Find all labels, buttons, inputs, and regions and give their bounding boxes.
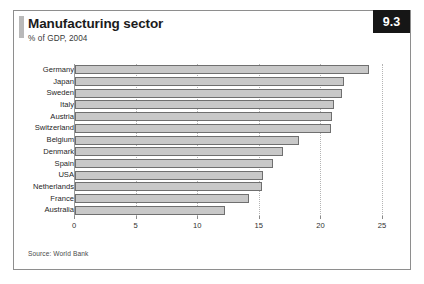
plot-area: GermanyJapanSwedenItalyAustriaSwitzerlan… — [14, 55, 412, 235]
category-label: France — [50, 193, 74, 205]
chart-subtitle: % of GDP, 2004 — [28, 34, 88, 43]
gridline — [320, 64, 321, 216]
category-label: Italy — [60, 99, 74, 111]
title-accent-bar — [19, 16, 24, 38]
chart-title: Manufacturing sector — [28, 16, 163, 31]
bar — [75, 89, 342, 98]
tick-mark — [320, 216, 321, 219]
tick-mark — [136, 216, 137, 219]
category-label: Austria — [50, 111, 74, 123]
tick-label: 15 — [255, 221, 263, 230]
category-label: Australia — [44, 204, 74, 216]
tick-label: 5 — [133, 221, 137, 230]
bar — [75, 159, 273, 168]
bars-and-gridlines — [74, 64, 399, 216]
chart-card: Manufacturing sector % of GDP, 2004 9.3 … — [13, 10, 411, 270]
bar — [75, 206, 225, 215]
tick-mark — [382, 216, 383, 219]
category-axis-labels: GermanyJapanSwedenItalyAustriaSwitzerlan… — [14, 64, 74, 216]
source-note: Source: World Bank — [28, 250, 88, 257]
bar — [75, 194, 249, 203]
gridline — [382, 64, 383, 216]
bar — [75, 65, 369, 74]
chart-page: Manufacturing sector % of GDP, 2004 9.3 … — [0, 0, 424, 284]
category-label: Netherlands — [33, 181, 74, 193]
tick-mark — [74, 216, 75, 219]
category-label: USA — [58, 169, 74, 181]
tick-label: 0 — [72, 221, 76, 230]
section-number-badge: 9.3 — [373, 10, 410, 33]
bar — [75, 171, 263, 180]
tick-mark — [259, 216, 260, 219]
card-header: Manufacturing sector % of GDP, 2004 9.3 — [14, 11, 410, 55]
category-label: Japan — [53, 76, 74, 88]
category-label: Belgium — [47, 134, 74, 146]
bar — [75, 112, 332, 121]
bar — [75, 182, 262, 191]
tick-label: 20 — [316, 221, 324, 230]
bar — [75, 124, 331, 133]
category-label: Spain — [55, 158, 74, 170]
bar — [75, 136, 299, 145]
bar — [75, 77, 344, 86]
category-label: Sweden — [47, 87, 74, 99]
tick-label: 25 — [378, 221, 386, 230]
category-label: Germany — [43, 64, 74, 76]
tick-label: 10 — [193, 221, 201, 230]
value-axis-ticks: 0510152025 — [74, 216, 399, 234]
category-label: Switzerland — [35, 122, 74, 134]
bar — [75, 100, 334, 109]
tick-mark — [197, 216, 198, 219]
bar — [75, 147, 283, 156]
category-label: Denmark — [43, 146, 74, 158]
